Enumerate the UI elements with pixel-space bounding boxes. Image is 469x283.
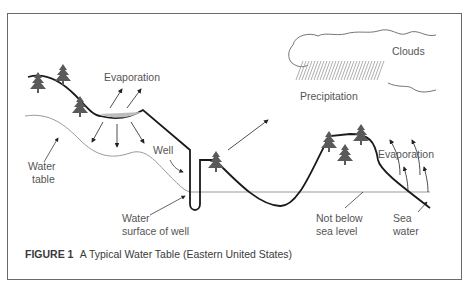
tree-icon — [72, 96, 88, 117]
label-clouds: Clouds — [392, 45, 425, 58]
label-not-below-1: Not below — [316, 212, 363, 225]
figure-caption: FIGURE 1 A Typical Water Table (Eastern … — [25, 248, 292, 260]
figure-number: FIGURE 1 — [25, 248, 73, 260]
label-water-table-2: table — [32, 173, 55, 186]
figure-title: A Typical Water Table (Eastern United St… — [80, 248, 292, 260]
label-precipitation: Precipitation — [300, 90, 358, 103]
tree-icon — [337, 144, 353, 165]
label-water-surface-1: Water — [122, 212, 150, 225]
ground-left — [28, 76, 214, 210]
water-table-line — [25, 115, 430, 192]
tree-icon — [208, 151, 224, 172]
label-not-below-2: sea level — [316, 225, 357, 238]
label-evaporation-right: Evaporation — [378, 148, 434, 161]
label-evaporation-left: Evaporation — [104, 71, 160, 84]
cloud-shape — [289, 30, 436, 92]
water-table-diagram — [0, 0, 469, 283]
label-water-surface-2: surface of well — [122, 225, 189, 238]
precipitation-hatch — [296, 61, 384, 80]
label-sea-water-1: Sea — [393, 212, 412, 225]
label-water-table-1: Water — [28, 160, 56, 173]
label-sea-water-2: water — [393, 225, 419, 238]
label-well: Well — [153, 144, 173, 157]
